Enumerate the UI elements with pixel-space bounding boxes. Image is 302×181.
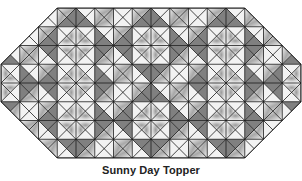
- quilt-diagram: [0, 0, 302, 162]
- figure-caption: Sunny Day Topper: [0, 164, 302, 176]
